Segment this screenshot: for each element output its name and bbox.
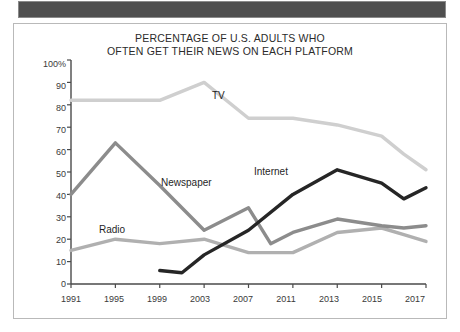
x-tick-label-1995: 1995	[94, 294, 134, 304]
chart-svg	[14, 24, 448, 318]
y-tick-label-20: 20	[32, 235, 66, 245]
y-tick-label-40: 40	[32, 191, 66, 201]
y-tick-label-60: 60	[32, 147, 66, 157]
series-label-internet: Internet	[254, 166, 288, 177]
y-tick-label-0: 0	[32, 279, 66, 289]
series-line-tv	[71, 82, 426, 169]
x-tick-label-2003: 2003	[180, 294, 220, 304]
x-tick-label-2013: 2013	[309, 294, 349, 304]
x-tick-label-2011: 2011	[266, 294, 306, 304]
y-tick-label-70: 70	[32, 125, 66, 135]
series-label-newspaper: Newspaper	[161, 177, 212, 188]
header-bar	[18, 1, 446, 18]
x-tick-label-2007: 2007	[223, 294, 263, 304]
y-tick-label-80: 80	[32, 103, 66, 113]
x-tick-label-1999: 1999	[137, 294, 177, 304]
y-tick-label-50: 50	[32, 169, 66, 179]
chart-plot-area: 100% 90 80 70 60 50 40 30 20 10 0 1991 1…	[14, 24, 448, 318]
y-tick-label-30: 30	[32, 213, 66, 223]
series-label-tv: TV	[212, 90, 225, 101]
chart-frame: PERCENTAGE OF U.S. ADULTS WHO OFTEN GET …	[13, 23, 447, 319]
header-bar-fill	[19, 2, 445, 17]
y-tick-label-90: 90	[32, 81, 66, 91]
x-tick-label-1991: 1991	[51, 294, 91, 304]
y-tick-label-100: 100%	[32, 59, 66, 69]
series-label-radio: Radio	[99, 224, 125, 235]
y-tick-label-10: 10	[32, 257, 66, 267]
x-tick-label-2017: 2017	[395, 294, 435, 304]
x-tick-label-2015: 2015	[352, 294, 392, 304]
